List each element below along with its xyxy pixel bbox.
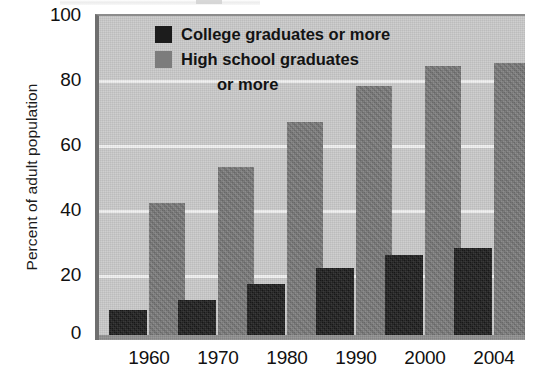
legend-swatch-college-icon	[155, 26, 172, 43]
x-tick-label-2004: 2004	[458, 347, 530, 369]
legend-label-college: College graduates or more	[181, 22, 390, 47]
cropped-title-artifact	[60, 0, 260, 5]
y-tick-label-20: 20	[25, 264, 81, 286]
legend-item-highschool-line2: or more	[155, 72, 475, 97]
cropped-title-artifact-block	[196, 0, 222, 4]
bar-college-2000	[385, 255, 423, 336]
y-tick-label-80: 80	[25, 69, 81, 91]
legend-item-college: College graduates or more	[155, 22, 475, 47]
y-tick-label-60: 60	[25, 134, 81, 156]
legend-label-highschool: High school graduates	[181, 47, 359, 72]
x-axis-baseline	[99, 335, 525, 340]
bar-college-1970	[178, 300, 216, 336]
x-tick-label-1980: 1980	[251, 347, 323, 369]
x-tick-label-1990: 1990	[320, 347, 392, 369]
y-tick-label-100: 100	[25, 4, 81, 26]
x-tick-label-1960: 1960	[113, 347, 185, 369]
legend-label-highschool-line2: or more	[217, 72, 278, 97]
bar-highschool-2004	[494, 63, 525, 336]
bar-college-1960	[109, 310, 147, 336]
bar-college-2004	[454, 248, 492, 336]
y-tick-label-0: 0	[25, 322, 81, 344]
bar-college-1980	[247, 284, 285, 336]
legend-swatch-highschool-icon	[155, 51, 172, 68]
y-tick-label-40: 40	[25, 199, 81, 221]
legend-item-highschool: High school graduates	[155, 47, 475, 72]
x-tick-label-2000: 2000	[389, 347, 461, 369]
bar-college-1990	[316, 268, 354, 336]
bar-chart: Percent of adult population 100 80 60 40…	[0, 0, 560, 383]
x-tick-label-1970: 1970	[182, 347, 254, 369]
legend: College graduates or more High school gr…	[155, 22, 475, 97]
